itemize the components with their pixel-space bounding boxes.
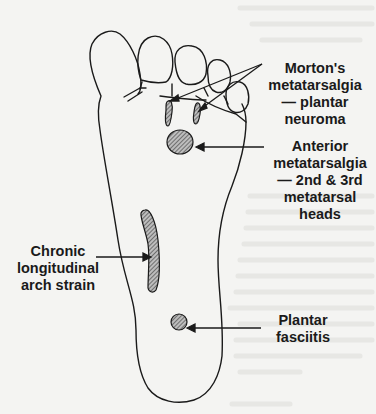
label-anterior-metatarsalgia: Anterior metatarsalgia — 2nd & 3rd metat… <box>264 138 376 223</box>
label-plantar-fasciitis: Plantar fasciitis <box>270 312 336 346</box>
plantar-fasciitis-mark <box>171 314 187 330</box>
label-line: Plantar <box>270 312 336 329</box>
toe-5 <box>226 82 249 113</box>
morton-mark-2 <box>193 103 200 124</box>
label-line: heads <box>264 206 376 223</box>
label-line: arch strain <box>16 277 100 294</box>
toe-2 <box>138 36 173 83</box>
morton-mark-1 <box>165 101 172 126</box>
label-arch-strain: Chronic longitudinal arch strain <box>16 243 100 294</box>
label-line: — plantar <box>262 94 368 111</box>
label-line: neuroma <box>262 111 368 128</box>
label-line: Chronic <box>16 243 100 260</box>
label-line: metatarsal <box>264 189 376 206</box>
toe-3 <box>175 46 207 85</box>
foot-outline <box>90 31 246 402</box>
arch-strain-mark <box>141 210 159 292</box>
label-line: Morton's <box>262 60 368 77</box>
anterior-mark <box>167 130 193 154</box>
label-line: Anterior <box>264 138 376 155</box>
label-mortons-neuroma: Morton's metatarsalgia — plantar neuroma <box>262 60 368 128</box>
label-line: fasciitis <box>270 329 336 346</box>
label-line: — 2nd & 3rd <box>264 172 376 189</box>
label-line: metatarsalgia <box>264 155 376 172</box>
label-line: metatarsalgia <box>262 77 368 94</box>
label-line: longitudinal <box>16 260 100 277</box>
